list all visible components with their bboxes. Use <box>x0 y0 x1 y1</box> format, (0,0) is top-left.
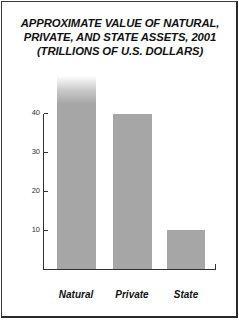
y-tick-label: 20 <box>16 187 40 195</box>
x-axis <box>43 269 216 270</box>
y-tick-40 <box>44 113 48 114</box>
bar-natural <box>57 76 96 269</box>
y-axis <box>43 114 44 270</box>
y-tick-20 <box>44 191 48 192</box>
chart-title-line-1: APPROXIMATE VALUE OF NATURAL, <box>2 16 238 30</box>
y-tick-10 <box>44 230 48 231</box>
chart-title-line-2: PRIVATE, AND STATE ASSETS, 2001 <box>2 30 238 44</box>
y-tick-label: 30 <box>16 148 40 156</box>
chart-title: APPROXIMATE VALUE OF NATURAL, PRIVATE, A… <box>2 16 238 58</box>
x-label-private: Private <box>102 289 162 300</box>
bar-state <box>167 230 205 269</box>
x-axis-end-tick <box>215 264 216 270</box>
y-tick-label: 10 <box>16 226 40 234</box>
x-label-state: State <box>156 289 216 300</box>
chart-title-line-3: (TRILLIONS OF U.S. DOLLARS) <box>2 44 238 58</box>
x-label-natural: Natural <box>46 289 106 300</box>
y-tick-30 <box>44 152 48 153</box>
y-tick-label: 40 <box>16 109 40 117</box>
chart-frame: APPROXIMATE VALUE OF NATURAL, PRIVATE, A… <box>1 1 238 318</box>
bar-private <box>113 114 152 269</box>
